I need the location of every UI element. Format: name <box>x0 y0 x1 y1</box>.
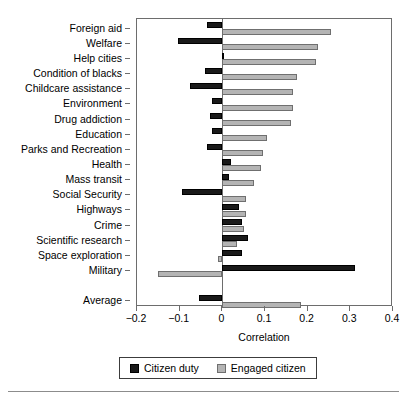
bar-citizen-duty <box>182 189 223 195</box>
x-axis-tick-label: −0.2 <box>126 312 147 324</box>
bar-citizen-duty <box>205 68 222 74</box>
category-tick <box>125 255 130 256</box>
legend-entry-engaged-citizen: Engaged citizen <box>217 362 306 374</box>
x-axis-tick <box>136 306 137 311</box>
category-label: Mass transit <box>65 174 122 185</box>
x-axis-tick <box>264 306 265 311</box>
bar-citizen-duty <box>178 38 223 44</box>
x-axis-tick-label: −0.1 <box>168 312 189 324</box>
category-label: Social Security <box>53 189 122 200</box>
category-tick <box>125 103 130 104</box>
bar-citizen-duty <box>222 53 224 59</box>
bar-engaged-citizen <box>218 256 222 262</box>
bar-citizen-duty <box>212 98 223 104</box>
bar-citizen-duty <box>222 250 241 256</box>
bar-citizen-duty <box>207 22 222 28</box>
category-label: Scientific research <box>36 234 122 245</box>
bar-citizen-duty <box>222 174 228 180</box>
category-label: Parks and Recreation <box>21 143 122 154</box>
category-tick <box>125 88 130 89</box>
bar-citizen-duty <box>222 265 354 271</box>
bar-citizen-duty <box>190 83 222 89</box>
legend-label: Citizen duty <box>144 362 199 374</box>
bar-engaged-citizen <box>222 120 290 126</box>
x-axis-tick <box>392 306 393 311</box>
category-label: Drug addiction <box>54 113 122 124</box>
bar-engaged-citizen <box>222 44 318 50</box>
bar-engaged-citizen <box>222 150 263 156</box>
category-label: Welfare <box>86 37 122 48</box>
bar-citizen-duty <box>222 159 231 165</box>
x-axis-tick-label: 0 <box>218 312 224 324</box>
legend-swatch-icon <box>130 364 139 373</box>
bar-citizen-duty <box>207 144 222 150</box>
category-label: Childcare assistance <box>25 83 122 94</box>
category-axis: Foreign aidWelfareHelp citiesCondition o… <box>0 18 130 306</box>
category-tick <box>125 209 130 210</box>
category-label: Highways <box>76 204 122 215</box>
category-tick <box>125 58 130 59</box>
category-tick <box>125 194 130 195</box>
x-axis-tick-label: 0.3 <box>342 312 357 324</box>
category-tick <box>125 73 130 74</box>
bar-citizen-duty <box>210 113 223 119</box>
bar-engaged-citizen <box>222 89 292 95</box>
category-tick <box>125 134 130 135</box>
category-label: Crime <box>94 219 122 230</box>
bar-citizen-duty <box>222 235 248 241</box>
x-axis-tick-label: 0.1 <box>257 312 272 324</box>
category-tick <box>125 179 130 180</box>
legend-entry-citizen-duty: Citizen duty <box>130 362 199 374</box>
category-tick <box>125 270 130 271</box>
category-label: Average <box>83 295 122 306</box>
bar-engaged-citizen <box>222 241 237 247</box>
x-axis-tick <box>349 306 350 311</box>
bar-engaged-citizen <box>222 74 297 80</box>
bar-citizen-duty <box>222 219 241 225</box>
bar-engaged-citizen <box>222 59 316 65</box>
category-label: Help cities <box>74 52 122 63</box>
category-tick <box>125 225 130 226</box>
category-label: Education <box>75 128 122 139</box>
bar-citizen-duty <box>222 204 239 210</box>
bar-citizen-duty <box>199 295 222 301</box>
x-axis-tick <box>221 306 222 311</box>
category-label: Condition of blacks <box>33 68 122 79</box>
category-label: Environment <box>63 98 122 109</box>
bar-citizen-duty <box>212 128 223 134</box>
chart-figure: Foreign aidWelfareHelp citiesCondition o… <box>0 0 407 403</box>
x-axis-tick <box>179 306 180 311</box>
category-tick <box>125 119 130 120</box>
bar-engaged-citizen <box>222 135 267 141</box>
bar-engaged-citizen <box>158 271 222 277</box>
x-axis-tick-label: 0.2 <box>299 312 314 324</box>
bar-engaged-citizen <box>222 196 245 202</box>
plot-area <box>136 18 392 306</box>
bar-engaged-citizen <box>222 29 331 35</box>
category-tick <box>125 240 130 241</box>
bar-engaged-citizen <box>222 180 254 186</box>
category-label: Space exploration <box>38 249 122 260</box>
bar-engaged-citizen <box>222 211 245 217</box>
x-axis-tick <box>307 306 308 311</box>
category-label: Foreign aid <box>69 22 122 33</box>
chart-legend: Citizen duty Engaged citizen <box>119 357 317 379</box>
x-axis-title: Correlation <box>136 331 392 343</box>
legend-label: Engaged citizen <box>231 362 306 374</box>
legend-swatch-icon <box>217 364 226 373</box>
category-label: Military <box>89 265 122 276</box>
x-axis: −0.2−0.100.10.20.30.4 <box>136 306 392 332</box>
category-tick <box>125 149 130 150</box>
category-tick <box>125 164 130 165</box>
bottom-divider <box>8 391 399 392</box>
bar-engaged-citizen <box>222 105 292 111</box>
bar-engaged-citizen <box>222 226 243 232</box>
category-tick <box>125 28 130 29</box>
category-tick <box>125 43 130 44</box>
bar-engaged-citizen <box>222 165 260 171</box>
category-label: Health <box>92 159 122 170</box>
category-tick <box>125 300 130 301</box>
x-axis-tick-label: 0.4 <box>385 312 400 324</box>
